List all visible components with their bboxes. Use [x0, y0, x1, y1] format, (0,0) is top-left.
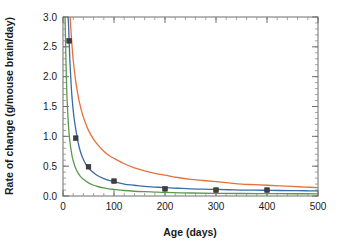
x-axis-tick-labels: 0100200300400500 — [60, 201, 327, 212]
data-point-marker — [67, 39, 72, 44]
data-point-marker — [73, 136, 78, 141]
y-tick-label: 1.5 — [43, 101, 57, 112]
x-tick-label: 300 — [208, 201, 225, 212]
data-point-marker — [112, 179, 117, 184]
data-point-marker — [163, 187, 168, 192]
plot-frame — [63, 17, 318, 196]
series-curves — [65, 17, 318, 194]
y-tick-label: 1.0 — [43, 131, 57, 142]
y-tick-label: 3.0 — [43, 12, 57, 23]
x-axis-minor-ticks — [63, 17, 318, 196]
y-axis-minor-ticks — [63, 17, 318, 196]
data-point-marker — [214, 188, 219, 193]
y-tick-label: 2.5 — [43, 41, 57, 52]
y-tick-label: 0.0 — [43, 191, 57, 202]
y-tick-label: 2.0 — [43, 71, 57, 82]
x-tick-label: 100 — [106, 201, 123, 212]
series-data-markers — [67, 39, 269, 193]
series-line-middle-curve — [68, 17, 318, 191]
chart-figure: 0100200300400500 0.00.51.01.52.02.53.0 A… — [0, 0, 350, 242]
x-tick-label: 400 — [259, 201, 276, 212]
x-axis-major-ticks — [63, 17, 318, 196]
series-line-lower-curve — [65, 17, 318, 194]
x-tick-label: 0 — [60, 201, 66, 212]
data-point-marker — [86, 164, 91, 169]
y-axis-tick-labels: 0.00.51.01.52.02.53.0 — [43, 12, 57, 202]
y-axis-major-ticks — [63, 17, 318, 196]
chart-canvas: 0100200300400500 0.00.51.01.52.02.53.0 A… — [0, 0, 350, 242]
y-tick-label: 0.5 — [43, 161, 57, 172]
x-axis-title: Age (days) — [163, 226, 217, 238]
series-line-upper-curve — [70, 17, 318, 188]
y-axis-title: Rate of change (g/mouse brain/day) — [3, 17, 15, 195]
data-point-marker — [265, 188, 270, 193]
x-tick-label: 500 — [310, 201, 327, 212]
x-tick-label: 200 — [157, 201, 174, 212]
